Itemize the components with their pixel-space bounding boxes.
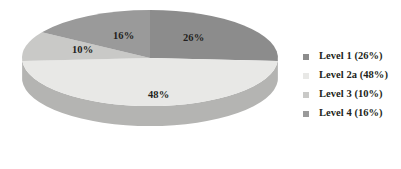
pie-slice-label-level-4: 16%	[113, 31, 134, 42]
pie-chart-plot-area: 26% 48% 10% 16%	[0, 0, 300, 169]
pie-slice-label-level-1: 26%	[183, 33, 204, 44]
legend-swatch-level-1-icon	[303, 54, 309, 60]
legend-swatch-level-2a-icon	[303, 73, 309, 79]
pie-chart-figure: 26% 48% 10% 16% Level 1 (26%) Level 2a (…	[0, 0, 401, 169]
legend-item-level-2a: Level 2a (48%)	[303, 66, 401, 85]
pie-chart-svg	[0, 0, 300, 169]
pie-slice-label-level-2a: 48%	[148, 90, 169, 101]
pie-slice-level-1	[150, 10, 278, 61]
legend-item-level-3: Level 3 (10%)	[303, 85, 401, 104]
legend-label-level-3: Level 3 (10%)	[319, 89, 383, 100]
legend-item-level-1: Level 1 (26%)	[303, 47, 401, 66]
legend-label-level-1: Level 1 (26%)	[319, 51, 383, 62]
legend-item-level-4: Level 4 (16%)	[303, 104, 401, 123]
chart-legend: Level 1 (26%) Level 2a (48%) Level 3 (10…	[303, 47, 401, 123]
legend-swatch-level-4-icon	[303, 111, 309, 117]
legend-label-level-2a: Level 2a (48%)	[319, 70, 388, 81]
pie-slice-label-level-3: 10%	[72, 45, 93, 56]
legend-label-level-4: Level 4 (16%)	[319, 108, 383, 119]
legend-swatch-level-3-icon	[303, 92, 309, 98]
